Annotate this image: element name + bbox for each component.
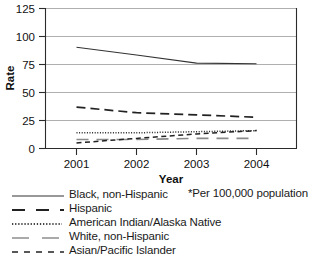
legend-item-asian-pacific-islander: Asian/Pacific Islander	[12, 243, 176, 257]
series-line-white-non-hispanic	[77, 138, 257, 139]
legend-label-white-non-hispanic: White, non-Hispanic	[69, 230, 169, 242]
y-axis-tick-labels: 125 100 75 50 25 0	[16, 3, 35, 155]
legend-label-black-non-hispanic: Black, non-Hispanic	[69, 188, 168, 200]
y-axis-title: Rate	[4, 66, 16, 91]
y-tick-label-125: 125	[16, 3, 35, 15]
chart-footnote: *Per 100,000 population	[188, 187, 308, 199]
x-tick-label-2004: 2004	[244, 158, 270, 170]
dotted-line-key	[12, 216, 64, 228]
series-line-black-non-hispanic	[77, 47, 257, 64]
x-axis-ticks	[77, 149, 257, 156]
legend-label-asian-pacific-islander: Asian/Pacific Islander	[69, 244, 176, 256]
legend-item-white-non-hispanic: White, non-Hispanic	[12, 229, 169, 243]
y-tick-label-100: 100	[16, 31, 35, 43]
y-tick-label-50: 50	[22, 87, 35, 99]
x-tick-label-2002: 2002	[124, 158, 150, 170]
x-axis-title: Year	[159, 173, 184, 185]
legend-item-hispanic: Hispanic	[12, 201, 112, 215]
gridlines	[45, 9, 297, 121]
light-dash-line-key	[12, 230, 64, 242]
series-line-hispanic	[77, 107, 257, 117]
legend-label-hispanic: Hispanic	[69, 202, 112, 214]
chart-plot-region: 125 100 75 50 25 0 2001 2002 2003 2004 R…	[0, 0, 322, 186]
y-tick-label-25: 25	[22, 115, 35, 127]
rate-by-race-line-chart: 125 100 75 50 25 0 2001 2002 2003 2004 R…	[0, 0, 322, 259]
y-axis-ticks	[39, 9, 45, 149]
y-tick-label-75: 75	[22, 59, 35, 71]
x-tick-label-2001: 2001	[64, 158, 90, 170]
x-axis-tick-labels: 2001 2002 2003 2004	[64, 158, 270, 170]
y-tick-label-0: 0	[29, 143, 35, 155]
axis-frame	[45, 8, 297, 149]
x-tick-label-2003: 2003	[184, 158, 210, 170]
long-dash-line-key	[12, 202, 64, 214]
chart-legend: Black, non-Hispanic Hispanic American In…	[12, 187, 322, 259]
legend-label-american-indian-alaska-native: American Indian/Alaska Native	[69, 216, 221, 228]
chart-svg: 125 100 75 50 25 0 2001 2002 2003 2004 R…	[0, 0, 322, 186]
solid-line-key	[12, 188, 64, 200]
legend-item-black-non-hispanic: Black, non-Hispanic	[12, 187, 168, 201]
legend-item-american-indian-alaska-native: American Indian/Alaska Native	[12, 215, 221, 229]
short-dash-line-key	[12, 244, 64, 256]
